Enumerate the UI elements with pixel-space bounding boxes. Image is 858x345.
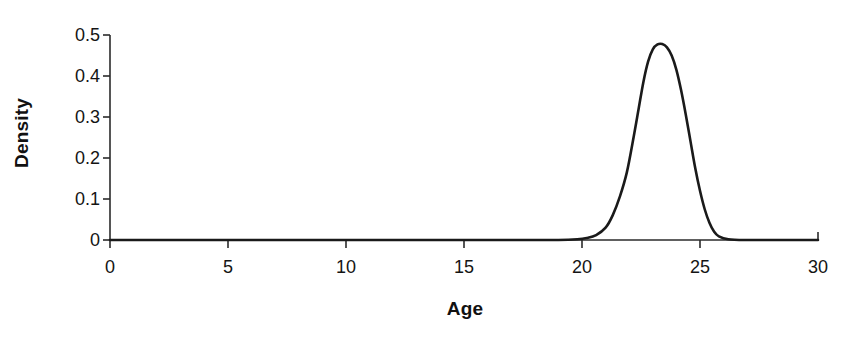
plot-area — [0, 0, 858, 345]
density-curve-line — [110, 44, 818, 240]
density-chart: Density Age 00.10.20.30.40.5 05101520253… — [0, 0, 858, 345]
axis-lines — [110, 35, 818, 240]
axis-tick-marks — [103, 35, 818, 248]
